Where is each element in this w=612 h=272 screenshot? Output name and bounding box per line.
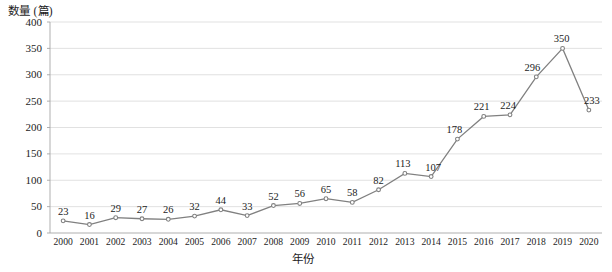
y-axis-tick-label: 400	[8, 17, 42, 28]
data-point-marker	[193, 214, 197, 218]
data-point-label: 82	[362, 175, 396, 186]
y-axis-tick-label: 200	[8, 122, 42, 133]
plot-area	[0, 0, 612, 272]
data-point-markers	[61, 46, 591, 226]
data-point-marker	[561, 46, 565, 50]
data-point-marker	[140, 217, 144, 221]
y-axis-tick-label: 50	[8, 201, 42, 212]
data-point-marker	[482, 115, 486, 119]
data-point-marker	[114, 216, 118, 220]
data-point-marker	[403, 171, 407, 175]
y-axis-tick-label: 250	[8, 96, 42, 107]
gridlines	[50, 22, 602, 207]
data-point-marker	[587, 108, 591, 112]
data-point-marker	[219, 208, 223, 212]
data-point-label: 224	[491, 100, 525, 111]
data-point-marker	[377, 188, 381, 192]
data-point-label: 350	[545, 33, 579, 44]
line-chart: 数量 (篇) 年份 050100150200250300350400 20002…	[0, 0, 612, 272]
y-axis-tick-label: 300	[8, 69, 42, 80]
data-point-marker	[429, 175, 433, 179]
data-point-label: 113	[386, 158, 420, 169]
data-point-marker	[324, 197, 328, 201]
data-point-marker	[245, 214, 249, 218]
y-axis-tick-label: 350	[8, 43, 42, 54]
data-point-label: 296	[515, 62, 549, 73]
y-axis-tick-label: 0	[8, 228, 42, 239]
data-point-marker	[350, 201, 354, 205]
y-axis-tick-label: 150	[8, 148, 42, 159]
data-point-label: 33	[230, 201, 264, 212]
data-point-label: 107	[416, 162, 450, 173]
data-point-marker	[166, 217, 170, 221]
data-point-marker	[298, 202, 302, 206]
data-point-marker	[508, 113, 512, 117]
data-point-label: 58	[335, 187, 369, 198]
data-point-label: 233	[575, 95, 609, 106]
data-point-marker	[534, 75, 538, 79]
y-axis-tick-label: 100	[8, 175, 42, 186]
data-point-marker	[272, 204, 276, 208]
data-point-marker	[61, 219, 65, 223]
x-axis-tick-label: 2020	[572, 237, 606, 247]
data-point-label: 178	[437, 124, 471, 135]
data-point-marker	[456, 137, 460, 141]
data-point-marker	[88, 223, 92, 227]
